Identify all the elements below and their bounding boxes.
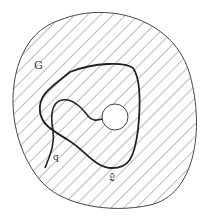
label-loop: 𝔏 xyxy=(109,172,115,183)
label-q: q xyxy=(53,152,59,162)
diagram: G q 𝔏 xyxy=(0,0,204,218)
hole-circle xyxy=(102,104,128,130)
label-g: G xyxy=(34,59,43,72)
